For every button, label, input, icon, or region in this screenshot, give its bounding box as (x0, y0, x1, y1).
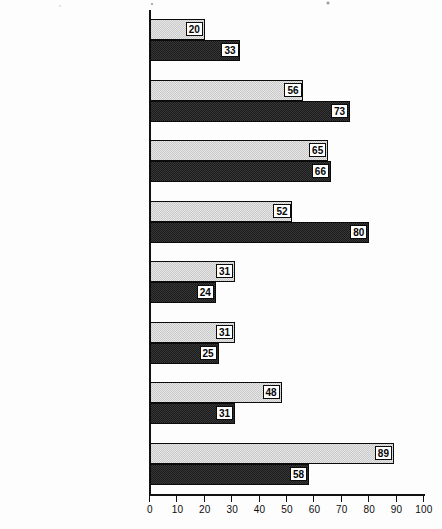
x-axis-tick-label: 80 (356, 504, 382, 515)
x-axis-tick (368, 496, 369, 502)
value-label: 89 (375, 446, 392, 460)
plot-area: 0102030405060708090100Party values2033El… (150, 10, 424, 494)
x-axis-tick (396, 496, 397, 502)
chart-row: Liberal values5280 (150, 201, 424, 243)
x-axis-tick (231, 496, 232, 502)
value-label: 73 (331, 104, 348, 118)
x-axis-tick-label: 90 (384, 504, 410, 515)
x-axis-tick-label: 30 (219, 504, 245, 515)
chart-row: Populist values6566 (150, 140, 424, 182)
bar-chart: 0102030405060708090100Party values2033El… (0, 0, 442, 529)
value-label: 31 (216, 264, 233, 278)
chart-row: Socialist values8958 (150, 443, 424, 485)
scan-artifact (0, 0, 442, 9)
x-axis-tick (423, 496, 424, 502)
x-axis-tick-label: 40 (247, 504, 273, 515)
value-label: 20 (186, 22, 203, 36)
bar-series-1 (150, 443, 394, 464)
bar-series-2 (150, 222, 369, 243)
value-label: 52 (273, 204, 290, 218)
value-label: 56 (284, 83, 301, 97)
chart-row: Electoral values5673 (150, 80, 424, 122)
x-axis-tick-label: 100 (411, 504, 437, 515)
value-label: 31 (216, 325, 233, 339)
chart-row: Cultural nationalism3124 (150, 261, 424, 303)
bar-series-2 (150, 464, 309, 485)
x-axis-tick-label: 20 (192, 504, 218, 515)
x-axis-tick (204, 496, 205, 502)
value-label: 58 (290, 467, 307, 481)
x-axis-tick (313, 496, 314, 502)
value-label: 65 (309, 143, 326, 157)
value-label: 24 (197, 285, 214, 299)
value-label: 31 (216, 406, 233, 420)
bar-series-1 (150, 80, 303, 101)
bar-series-2 (150, 101, 350, 122)
chart-row: Centralist nationalism3125 (150, 322, 424, 364)
x-axis-tick (259, 496, 260, 502)
bar-series-1 (150, 140, 328, 161)
x-axis-tick-label: 70 (329, 504, 355, 515)
value-label: 25 (200, 346, 217, 360)
value-axis-line (149, 494, 425, 496)
x-axis-tick-label: 0 (137, 504, 163, 515)
x-axis-tick (286, 496, 287, 502)
x-axis-tick (341, 496, 342, 502)
x-axis-tick (149, 496, 150, 502)
value-label: 33 (221, 43, 238, 57)
chart-row: Party values2033 (150, 19, 424, 61)
x-axis-tick (176, 496, 177, 502)
bar-series-1 (150, 201, 292, 222)
value-label: 80 (350, 225, 367, 239)
value-label: 66 (312, 164, 329, 178)
value-label: 48 (263, 385, 280, 399)
chart-row: External nationalism4831 (150, 382, 424, 424)
x-axis-tick-label: 60 (301, 504, 327, 515)
bar-series-2 (150, 161, 331, 182)
x-axis-tick-label: 10 (164, 504, 190, 515)
x-axis-tick-label: 50 (274, 504, 300, 515)
